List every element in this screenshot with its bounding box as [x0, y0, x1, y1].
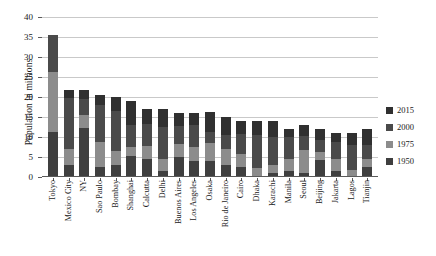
legend-item-1975[interactable]: 1975	[386, 137, 436, 151]
bar-segment-1950	[205, 161, 215, 177]
x-label-column: Buenos Aires	[171, 178, 187, 256]
bar-column[interactable]	[155, 17, 171, 177]
bar-column[interactable]	[139, 17, 155, 177]
bar-segment-2015	[221, 117, 231, 135]
bar-segment-1975	[48, 72, 58, 132]
bar-segment-1950	[126, 156, 136, 177]
bar-column[interactable]	[218, 17, 234, 177]
bar-segment-2000	[95, 105, 105, 142]
bar-segment-1950	[315, 160, 325, 177]
legend-swatch-1950	[386, 158, 393, 165]
stacked-bar[interactable]	[315, 129, 325, 177]
stacked-bar[interactable]	[236, 121, 246, 177]
legend-label: 1950	[397, 156, 414, 166]
bar-segment-2000	[362, 145, 372, 159]
bar-column[interactable]	[124, 17, 140, 177]
stacked-bar[interactable]	[126, 101, 136, 177]
legend-swatch-2000	[386, 124, 393, 131]
stacked-bar[interactable]	[48, 35, 58, 177]
bar-column[interactable]	[186, 17, 202, 177]
y-tick-label: 25	[9, 72, 33, 82]
x-tick-label: Manila	[285, 180, 293, 203]
legend-label: 2000	[397, 122, 414, 132]
bar-column[interactable]	[281, 17, 297, 177]
legend-swatch-1975	[386, 141, 393, 148]
bar-segment-2000	[142, 124, 152, 146]
x-label-column: Rio de Janeiro	[218, 178, 234, 256]
x-label-column: Manila	[281, 178, 297, 256]
bar-segment-2000	[111, 111, 121, 151]
bar-segment-1975	[142, 146, 152, 159]
legend-swatch-2015	[386, 107, 393, 114]
bar-segment-1975	[111, 151, 121, 165]
bar-column[interactable]	[108, 17, 124, 177]
x-label-column: Karachi	[265, 178, 281, 256]
bar-column[interactable]	[61, 17, 77, 177]
stacked-bar[interactable]	[79, 90, 89, 177]
bar-segment-1975	[252, 168, 262, 176]
bar-segment-2015	[189, 113, 199, 125]
bar-column[interactable]	[202, 17, 218, 177]
bar-column[interactable]	[328, 17, 344, 177]
bar-column[interactable]	[249, 17, 265, 177]
bar-segment-1975	[158, 159, 168, 171]
bar-group	[42, 17, 378, 177]
stacked-bar[interactable]	[221, 117, 231, 177]
stacked-bar[interactable]	[284, 129, 294, 177]
bar-column[interactable]	[265, 17, 281, 177]
bar-column[interactable]	[234, 17, 250, 177]
stacked-bar[interactable]	[142, 109, 152, 177]
x-tick-label: Delhi	[159, 180, 167, 198]
y-tick-label: 15	[9, 112, 33, 122]
legend-item-2000[interactable]: 2000	[386, 120, 436, 134]
stacked-bar[interactable]	[299, 125, 309, 177]
bar-column[interactable]	[45, 17, 61, 177]
x-axis-line	[42, 176, 378, 177]
y-tick-label: 35	[9, 32, 33, 42]
legend-item-1950[interactable]: 1950	[386, 154, 436, 168]
bar-column[interactable]	[171, 17, 187, 177]
bar-segment-2000	[252, 135, 262, 168]
bar-segment-1950	[79, 128, 89, 177]
y-tick-label: 10	[9, 132, 33, 142]
stacked-bar[interactable]	[189, 113, 199, 177]
x-axis-labels: TokyoMexico CityNYSao PauloBombayShangha…	[42, 178, 378, 256]
plot-area: 4035302520151050	[42, 17, 378, 177]
stacked-bar[interactable]	[331, 133, 341, 177]
bar-segment-1975	[174, 144, 184, 156]
stacked-bar[interactable]	[174, 113, 184, 177]
stacked-bar[interactable]	[205, 112, 215, 177]
x-tick-label: Dhaka	[253, 180, 261, 201]
bar-segment-2015	[95, 95, 105, 105]
bar-column[interactable]	[76, 17, 92, 177]
bar-segment-2015	[299, 125, 309, 136]
x-tick-label: Cairo	[237, 180, 245, 198]
bar-segment-1975	[189, 147, 199, 161]
stacked-bar[interactable]	[158, 109, 168, 177]
stacked-bar[interactable]	[64, 90, 74, 177]
bar-segment-2015	[79, 90, 89, 98]
stacked-bar[interactable]	[362, 129, 372, 177]
legend-item-2015[interactable]: 2015	[386, 103, 436, 117]
bar-column[interactable]	[359, 17, 375, 177]
bar-segment-1975	[268, 165, 278, 173]
legend-label: 1975	[397, 139, 414, 149]
stacked-bar[interactable]	[347, 133, 357, 177]
bar-column[interactable]	[92, 17, 108, 177]
bar-segment-2015	[111, 97, 121, 111]
x-tick-label: Tokyo	[49, 180, 57, 201]
bar-column[interactable]	[312, 17, 328, 177]
stacked-bar[interactable]	[252, 121, 262, 177]
y-tick-label: 30	[9, 52, 33, 62]
bar-column[interactable]	[297, 17, 313, 177]
bar-segment-1975	[221, 149, 231, 166]
stacked-bar[interactable]	[95, 95, 105, 177]
bar-column[interactable]	[344, 17, 360, 177]
bar-segment-2000	[347, 145, 357, 170]
stacked-bar[interactable]	[111, 97, 121, 177]
x-label-column: Dhaka	[249, 178, 265, 256]
x-tick-label: Buenos Aires	[175, 180, 183, 224]
x-label-column: Sao Paulo	[92, 178, 108, 256]
chart-legend: 2015200019751950	[386, 103, 436, 171]
stacked-bar[interactable]	[268, 121, 278, 177]
